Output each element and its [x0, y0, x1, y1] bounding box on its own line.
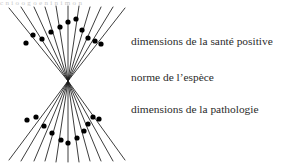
ray-dot — [96, 116, 101, 121]
ray — [9, 81, 68, 160]
figure-canvas: c n i o o g o e n i n i m o n dimensions… — [0, 0, 283, 168]
ray-dot — [30, 32, 35, 37]
lower-fan-dots — [24, 114, 101, 145]
ray — [68, 7, 90, 81]
ray-dot — [85, 121, 90, 126]
ray — [56, 6, 68, 81]
ray-dot — [58, 137, 63, 142]
ray-dot — [85, 35, 90, 40]
ray-dot — [65, 19, 70, 24]
ray-dot — [39, 36, 44, 41]
ray-dot — [73, 16, 78, 21]
ray-dot — [24, 117, 29, 122]
bowtie-diagram — [0, 0, 131, 168]
ray-dot — [23, 40, 28, 45]
bowtie-svg — [0, 0, 131, 168]
ray — [68, 81, 101, 161]
ray — [68, 81, 125, 160]
ray-dot — [41, 123, 46, 128]
ray-dot — [48, 29, 53, 34]
ray — [56, 81, 68, 162]
label-sante-positive: dimensions de la santé positive — [131, 35, 273, 47]
ray-dot — [98, 41, 103, 46]
ray-dot — [33, 114, 38, 119]
label-column: dimensions de la santé positive norme de… — [131, 0, 283, 168]
label-norme-espece: norme de l’espèce — [131, 71, 214, 83]
label-pathologie: dimensions de la pathologie — [131, 103, 259, 115]
ray — [45, 7, 68, 81]
ray — [45, 81, 68, 161]
ray-dot — [79, 27, 84, 32]
ray — [68, 81, 90, 161]
ray — [68, 7, 101, 81]
ray-dot — [57, 24, 62, 29]
ray-dot — [90, 114, 95, 119]
ray — [34, 7, 68, 81]
ray-dot — [49, 130, 54, 135]
ray — [68, 81, 79, 162]
ray-dot — [81, 128, 86, 133]
ray — [68, 81, 113, 161]
ray-dot — [92, 38, 97, 43]
ray — [9, 8, 68, 81]
ray — [34, 81, 68, 161]
ray-dot — [65, 140, 70, 145]
ray-dot — [74, 135, 79, 140]
